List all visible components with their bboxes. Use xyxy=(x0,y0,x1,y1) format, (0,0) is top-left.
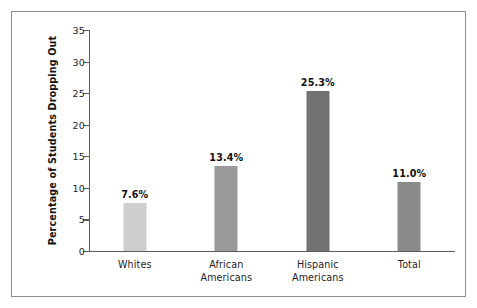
x-axis-category-label: African Americans xyxy=(181,259,273,284)
y-axis-title: Percentage of Students Dropping Out xyxy=(45,30,61,251)
bar-value-label: 13.4% xyxy=(209,152,243,163)
bar-value-label: 25.3% xyxy=(301,77,335,88)
bar-group: 11.0%Total xyxy=(364,30,456,251)
bar: 13.4% xyxy=(215,166,238,251)
bar-value-label: 7.6% xyxy=(121,189,148,200)
plot-area: 05101520253035 7.6%Whites13.4%African Am… xyxy=(89,30,455,251)
y-axis-title-label: Percentage of Students Dropping Out xyxy=(48,36,59,246)
y-axis-tick-label: 25 xyxy=(73,88,86,99)
x-axis-category-label: Total xyxy=(364,259,456,272)
x-axis-category-label: Whites xyxy=(89,259,181,272)
bar-value-label: 11.0% xyxy=(392,168,426,179)
y-axis-tick-label: 0 xyxy=(79,246,85,257)
figure-frame: Percentage of Students Dropping Out 0510… xyxy=(11,11,466,297)
bar: 11.0% xyxy=(398,182,421,251)
y-axis-tick-label: 10 xyxy=(73,182,86,193)
y-axis-tick-label: 5 xyxy=(79,214,85,225)
y-axis-tick-label: 20 xyxy=(73,119,86,130)
bar: 25.3% xyxy=(306,91,329,251)
y-axis-tick-label: 15 xyxy=(73,151,86,162)
x-axis-line xyxy=(89,251,455,252)
y-axis-tick-label: 35 xyxy=(73,25,86,36)
bar-group: 7.6%Whites xyxy=(89,30,181,251)
y-axis-tick-label: 30 xyxy=(73,56,86,67)
bar-group: 13.4%African Americans xyxy=(181,30,273,251)
bar: 7.6% xyxy=(123,203,146,251)
bar-group: 25.3%Hispanic Americans xyxy=(272,30,364,251)
x-axis-category-label: Hispanic Americans xyxy=(272,259,364,284)
